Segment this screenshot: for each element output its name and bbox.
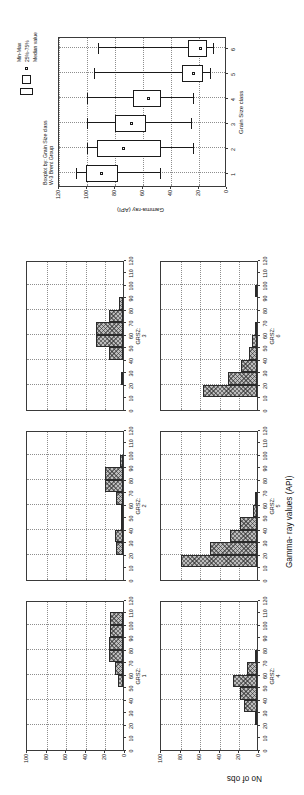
boxplot-x-tick-mark bbox=[226, 99, 228, 100]
gridline-horizontal bbox=[47, 602, 48, 750]
x-tick-mark bbox=[124, 310, 126, 311]
x-tick-mark bbox=[258, 360, 260, 361]
boxplot-x-tick-mark bbox=[226, 74, 228, 75]
x-tick-mark bbox=[124, 410, 126, 411]
x-tick-label: 10 bbox=[262, 736, 268, 742]
legend-minmax-label: Min-Max bbox=[16, 43, 22, 62]
x-tick-mark bbox=[124, 555, 126, 556]
x-tick-mark bbox=[124, 650, 126, 651]
boxplot-y-tick-label: 80 bbox=[111, 190, 117, 204]
x-tick-mark bbox=[124, 688, 126, 689]
gridline-horizontal bbox=[66, 602, 67, 750]
histogram-bar bbox=[255, 493, 257, 506]
box-whisker-cap-min bbox=[191, 118, 192, 129]
boxplot-legend: Min-Max25%-75%Median value bbox=[14, 3, 44, 95]
histogram-bar bbox=[255, 323, 257, 336]
y-tick-label: 60 bbox=[196, 754, 202, 767]
x-tick-mark bbox=[258, 260, 260, 261]
panel-label-line2: 5 bbox=[275, 497, 281, 514]
gridline-horizontal bbox=[143, 38, 144, 186]
y-tick-mark bbox=[65, 751, 66, 753]
x-tick-mark bbox=[258, 443, 260, 444]
gridline-horizontal bbox=[105, 602, 106, 750]
x-tick-mark bbox=[258, 663, 260, 664]
gridline-vertical bbox=[161, 479, 257, 480]
x-tick-label: 80 bbox=[262, 308, 268, 314]
boxplot-y-tick-mark bbox=[58, 187, 59, 189]
x-tick-mark bbox=[124, 323, 126, 324]
histogram-bar bbox=[121, 505, 123, 518]
x-tick-label: 0 bbox=[262, 410, 268, 413]
x-tick-label: 100 bbox=[262, 622, 268, 631]
x-tick-label: 100 bbox=[128, 452, 134, 461]
gridline-vertical bbox=[27, 699, 123, 700]
x-tick-mark bbox=[124, 613, 126, 614]
box-median-marker bbox=[199, 47, 202, 50]
legend-iqr-symbol bbox=[22, 75, 31, 84]
gridline-vertical bbox=[27, 674, 123, 675]
histogram-bar bbox=[115, 530, 123, 543]
plot-area-grsz-5 bbox=[160, 431, 258, 581]
y-tick-mark bbox=[219, 751, 220, 753]
histogram-bar bbox=[240, 518, 257, 531]
x-tick-mark bbox=[258, 530, 260, 531]
x-tick-mark bbox=[124, 385, 126, 386]
box-whisker-cap-min bbox=[160, 168, 161, 179]
x-tick-label: 20 bbox=[128, 383, 134, 389]
x-tick-mark bbox=[124, 543, 126, 544]
x-tick-label: 0 bbox=[128, 750, 134, 753]
boxplot-title-line2: W-3 Brent Group bbox=[48, 146, 54, 185]
x-tick-mark bbox=[258, 348, 260, 349]
histogram-bar bbox=[119, 298, 123, 311]
gridline-horizontal bbox=[47, 432, 48, 580]
x-tick-label: 110 bbox=[128, 609, 134, 618]
x-tick-label: 110 bbox=[128, 439, 134, 448]
x-tick-label: 70 bbox=[262, 491, 268, 497]
x-tick-label: 60 bbox=[262, 503, 268, 509]
x-tick-label: 100 bbox=[262, 282, 268, 291]
y-tick-mark bbox=[46, 751, 47, 753]
gridline-horizontal bbox=[47, 262, 48, 410]
boxplot-x-tick-label: 2 bbox=[230, 148, 236, 151]
x-tick-mark bbox=[258, 373, 260, 374]
legend-minmax-symbol bbox=[20, 88, 33, 95]
x-tick-mark bbox=[124, 273, 126, 274]
x-tick-mark bbox=[258, 385, 260, 386]
y-tick-label: 0 bbox=[121, 754, 127, 767]
x-tick-mark bbox=[258, 675, 260, 676]
legend-median-symbol bbox=[25, 67, 28, 70]
x-tick-mark bbox=[258, 613, 260, 614]
y-tick-label: 40 bbox=[216, 754, 222, 767]
x-tick-label: 40 bbox=[262, 528, 268, 534]
gridline-vertical bbox=[27, 554, 123, 555]
box-whisker-cap-max bbox=[87, 118, 88, 129]
gridline-vertical bbox=[161, 284, 257, 285]
gridline-horizontal bbox=[200, 262, 201, 410]
x-tick-label: 90 bbox=[128, 636, 134, 642]
x-tick-label: 20 bbox=[262, 723, 268, 729]
boxplot-y-tick-label: 0 bbox=[223, 190, 229, 204]
histogram-bar bbox=[230, 530, 257, 543]
x-tick-mark bbox=[124, 480, 126, 481]
x-tick-label: 60 bbox=[262, 333, 268, 339]
gridline-vertical bbox=[27, 624, 123, 625]
panel-label-grsz-6: GRSZ:6 bbox=[269, 327, 282, 344]
x-tick-label: 80 bbox=[128, 308, 134, 314]
y-tick-mark bbox=[199, 751, 200, 753]
boxplot-y-tick-label: 120 bbox=[55, 190, 61, 204]
x-tick-label: 0 bbox=[128, 580, 134, 583]
x-tick-mark bbox=[124, 738, 126, 739]
box-median-marker bbox=[130, 122, 133, 125]
histogram-bar bbox=[109, 348, 123, 361]
x-tick-mark bbox=[258, 298, 260, 299]
x-tick-label: 50 bbox=[128, 516, 134, 522]
x-tick-mark bbox=[258, 310, 260, 311]
histogram-bar bbox=[115, 663, 123, 676]
legend-median-label: Median value bbox=[32, 32, 38, 62]
histogram-bar bbox=[121, 373, 123, 386]
x-tick-label: 40 bbox=[128, 358, 134, 364]
x-tick-label: 100 bbox=[262, 452, 268, 461]
gridline-horizontal bbox=[66, 432, 67, 580]
boxplot-x-tick-label: 5 bbox=[230, 73, 236, 76]
histogram-bar bbox=[252, 335, 257, 348]
